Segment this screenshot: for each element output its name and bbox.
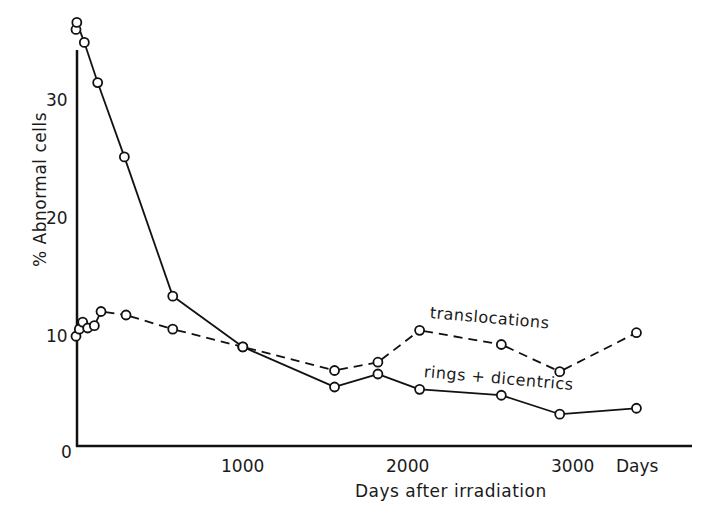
series-segment bbox=[564, 335, 633, 370]
series-segment bbox=[105, 312, 121, 314]
data-point-marker bbox=[238, 342, 247, 351]
x-axis-title: Days after irradiation bbox=[355, 481, 547, 501]
x-tick-1000: 1000 bbox=[221, 456, 264, 476]
series-segment bbox=[339, 375, 374, 385]
series-segment bbox=[424, 331, 497, 344]
series-segment bbox=[382, 376, 415, 388]
data-point-marker bbox=[168, 292, 177, 301]
data-point-marker bbox=[97, 307, 106, 316]
y-axis-title: % Abnormal cells bbox=[30, 137, 50, 267]
data-point-marker bbox=[330, 366, 339, 375]
series-translocations bbox=[72, 307, 641, 376]
y-tick-10: 10 bbox=[46, 326, 68, 346]
series-segment bbox=[130, 316, 168, 328]
data-point-marker bbox=[120, 152, 129, 161]
series-segment bbox=[506, 397, 556, 413]
data-point-marker bbox=[90, 321, 99, 330]
series-segment bbox=[247, 349, 330, 386]
series-segment bbox=[86, 47, 97, 79]
data-point-marker bbox=[632, 404, 641, 413]
x-tick-3000: 3000 bbox=[551, 456, 594, 476]
series-segment bbox=[424, 390, 497, 395]
data-point-marker bbox=[80, 38, 89, 47]
series-segment bbox=[99, 87, 123, 153]
data-point-marker bbox=[122, 311, 131, 320]
data-point-marker bbox=[168, 325, 177, 334]
series-rings-dicentrics bbox=[72, 18, 641, 419]
data-point-marker bbox=[373, 370, 382, 379]
data-point-marker bbox=[497, 340, 506, 349]
series-segment bbox=[505, 346, 555, 369]
y-tick-30: 30 bbox=[46, 90, 68, 110]
data-point-marker bbox=[72, 18, 81, 27]
series-segment bbox=[564, 409, 632, 414]
series-segment bbox=[126, 161, 171, 292]
x-unit-label: Days bbox=[616, 456, 658, 476]
series-segment bbox=[96, 316, 99, 322]
data-point-marker bbox=[632, 328, 641, 337]
x-tick-2000: 2000 bbox=[386, 456, 429, 476]
series-segment bbox=[381, 333, 416, 359]
data-point-marker bbox=[415, 385, 424, 394]
data-point-marker bbox=[93, 78, 102, 87]
data-point-marker bbox=[497, 391, 506, 400]
data-point-marker bbox=[373, 358, 382, 367]
data-point-marker bbox=[330, 383, 339, 392]
chart-canvas bbox=[0, 0, 708, 520]
series-segment bbox=[339, 363, 374, 370]
y-tick-0: 0 bbox=[61, 442, 72, 462]
data-point-marker bbox=[415, 326, 424, 335]
series-layer bbox=[72, 18, 641, 419]
data-point-marker bbox=[555, 410, 564, 419]
